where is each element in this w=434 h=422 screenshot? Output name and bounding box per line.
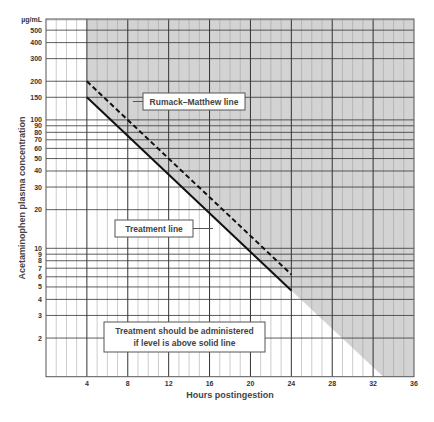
y-tick-label: 3 <box>38 312 42 319</box>
x-tick-label: 8 <box>126 380 130 387</box>
y-tick-label: 200 <box>30 78 42 85</box>
x-tick-label: 12 <box>165 380 173 387</box>
y-tick-label: 8 <box>38 257 42 264</box>
y-tick-label: 500 <box>30 27 42 34</box>
y-tick-label: 400 <box>30 39 42 46</box>
y-tick-label: 4 <box>38 296 42 303</box>
note-line-2: if level is above solid line <box>133 338 235 348</box>
y-tick-label: 80 <box>34 129 42 136</box>
x-tick-label: 28 <box>328 380 336 387</box>
rumack-label: Rumack–Matthew line <box>150 97 239 107</box>
y-tick-label: 50 <box>34 155 42 162</box>
x-tick-label: 24 <box>287 380 295 387</box>
treatment-annotation: Treatment line <box>115 220 213 237</box>
y-tick-label: 20 <box>34 206 42 213</box>
y-tick-label: 7 <box>38 265 42 272</box>
y-tick-label: 2 <box>38 335 42 342</box>
treatment-note: Treatment should be administered if leve… <box>104 322 265 352</box>
x-tick-label: 32 <box>369 380 377 387</box>
x-tick-label: 4 <box>85 380 89 387</box>
y-tick-label: 40 <box>34 167 42 174</box>
x-axis-title: Hours postingestion <box>186 390 274 400</box>
y-tick-label: 70 <box>34 136 42 143</box>
y-tick-label: 5 <box>38 283 42 290</box>
treatment-label: Treatment line <box>125 224 183 234</box>
x-axis-ticks: 4812162024283236 <box>85 380 418 387</box>
y-tick-label: 150 <box>30 94 42 101</box>
y-tick-label: 300 <box>30 55 42 62</box>
x-tick-label: 36 <box>410 380 418 387</box>
y-tick-label: 6 <box>38 273 42 280</box>
x-tick-label: 16 <box>206 380 214 387</box>
y-axis-title: Acetaminophen plasma concentration <box>17 116 27 279</box>
x-tick-label: 20 <box>247 380 255 387</box>
y-tick-label: 60 <box>34 145 42 152</box>
y-tick-label: 10 <box>34 245 42 252</box>
nomogram-chart: 2345678910203040506070809010015020030040… <box>0 0 434 422</box>
y-tick-label: 30 <box>34 184 42 191</box>
y-axis-ticks: 2345678910203040506070809010015020030040… <box>30 27 42 342</box>
note-line-1: Treatment should be administered <box>115 326 253 336</box>
y-unit-label: µg/mL <box>21 16 42 24</box>
rumack-annotation: Rumack–Matthew line <box>133 93 245 110</box>
y-tick-label: 100 <box>30 116 42 123</box>
